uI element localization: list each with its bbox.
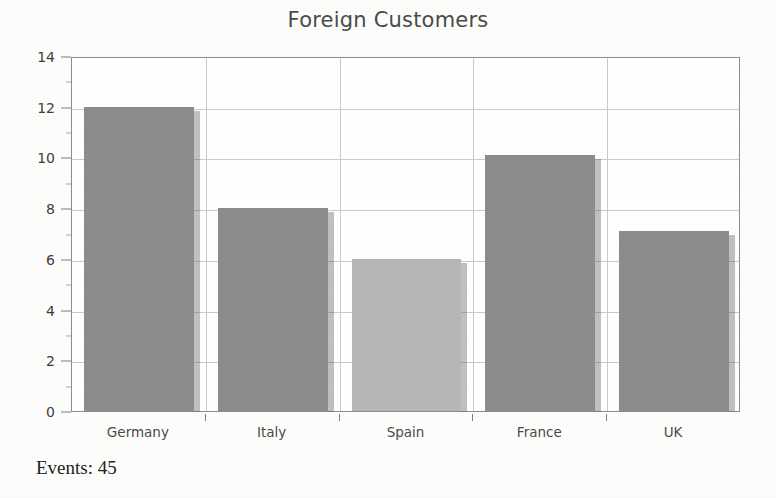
y-tick-label: 8 (46, 201, 55, 217)
plot-area (71, 57, 740, 412)
x-tick-label-uk: UK (664, 424, 683, 440)
y-tick-mark (61, 259, 71, 260)
bar-shadow (194, 111, 200, 412)
x-tick-label-france: France (517, 424, 562, 440)
y-tick-label: 2 (46, 353, 55, 369)
bar-series (72, 58, 739, 411)
y-tick-label: 4 (46, 303, 55, 319)
y-tick-mark (61, 57, 71, 58)
x-tick-label-italy: Italy (257, 424, 286, 440)
y-tick-mark (61, 158, 71, 159)
y-tick-label: 12 (37, 100, 55, 116)
y-axis: 02468101214 (0, 57, 71, 412)
y-tick-mark (61, 310, 71, 311)
y-tick-label: 0 (46, 404, 55, 420)
events-count-label: Events: 45 (36, 457, 117, 479)
x-tick-mark (606, 414, 607, 421)
bar-shadow (595, 159, 601, 412)
y-tick-mark (61, 209, 71, 210)
chart-title: Foreign Customers (0, 8, 776, 32)
x-axis: GermanyItalySpainFranceUK (71, 414, 740, 444)
x-tick-mark (205, 414, 206, 421)
x-tick-label-spain: Spain (387, 424, 425, 440)
bar-chart-figure: Foreign Customers 02468101214 GermanyIta… (0, 0, 776, 498)
bar-uk[interactable] (619, 231, 729, 411)
bar-spain[interactable] (352, 259, 462, 411)
bar-shadow (729, 235, 735, 412)
bar-germany[interactable] (84, 107, 194, 411)
y-tick-mark (61, 107, 71, 108)
x-tick-label-germany: Germany (107, 424, 169, 440)
bar-shadow (328, 212, 334, 412)
x-tick-mark (339, 414, 340, 421)
y-tick-mark (61, 361, 71, 362)
bar-shadow (461, 263, 467, 412)
bar-italy[interactable] (218, 208, 328, 411)
y-tick-label: 14 (37, 49, 55, 65)
y-tick-label: 6 (46, 252, 55, 268)
x-tick-mark (472, 414, 473, 421)
bar-france[interactable] (485, 155, 595, 411)
y-tick-mark (61, 412, 71, 413)
y-tick-label: 10 (37, 150, 55, 166)
